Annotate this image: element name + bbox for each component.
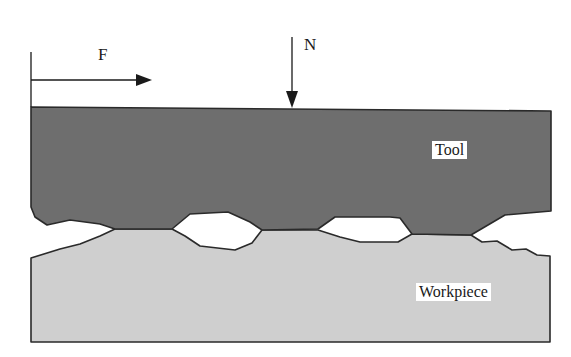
- friction-force-arrow: [31, 52, 152, 107]
- friction-force-label: F: [98, 46, 107, 63]
- normal-force-label: N: [304, 36, 316, 53]
- normal-force-arrow: [286, 37, 298, 108]
- contact-diagram: [0, 0, 571, 357]
- tool-body: [31, 107, 551, 235]
- workpiece-label: Workpiece: [416, 283, 491, 301]
- tool-label: Tool: [432, 141, 467, 159]
